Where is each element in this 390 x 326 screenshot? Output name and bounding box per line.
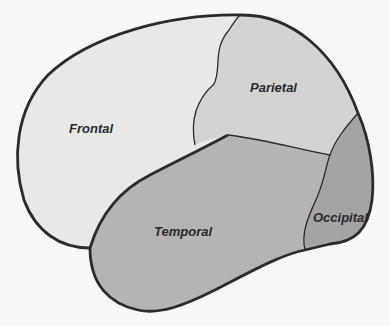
occipital-label: Occipital xyxy=(313,210,368,225)
parietal-label: Parietal xyxy=(250,80,297,95)
brain-outline-svg xyxy=(0,0,390,326)
temporal-label: Temporal xyxy=(154,224,212,239)
frontal-label: Frontal xyxy=(69,121,113,136)
brain-lobes-diagram: Frontal Parietal Temporal Occipital xyxy=(0,0,390,326)
